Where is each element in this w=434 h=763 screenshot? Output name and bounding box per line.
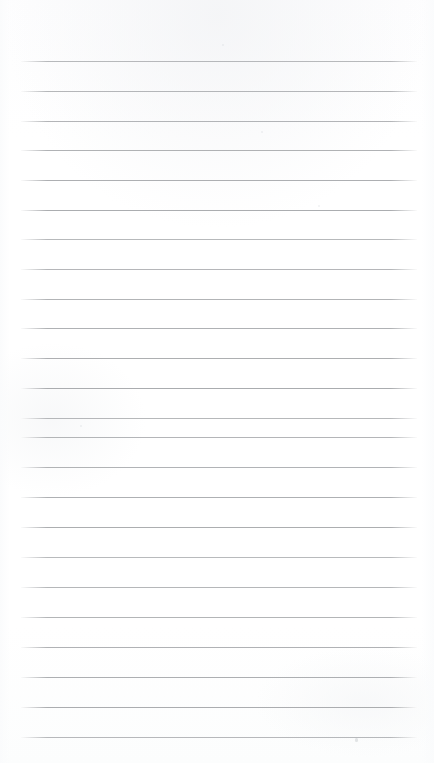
ruled-line [21, 150, 417, 151]
scan-speck [222, 44, 224, 46]
ruled-line [21, 707, 417, 708]
ruled-lines-group [0, 0, 434, 763]
ruled-line [21, 210, 417, 211]
ruled-line [21, 418, 417, 419]
ruled-line [21, 677, 417, 678]
ruled-line [21, 121, 417, 122]
scan-speck [318, 205, 320, 207]
ruled-line [21, 358, 417, 359]
ruled-line [21, 269, 417, 270]
ruled-line [21, 647, 417, 648]
ruled-line [21, 497, 417, 498]
ruled-line [21, 467, 417, 468]
ruled-line [21, 617, 417, 618]
scan-speck [80, 425, 82, 427]
scan-speck [261, 131, 263, 133]
ruled-line [21, 557, 417, 558]
ruled-line [21, 587, 417, 588]
ruled-line [21, 239, 417, 240]
ruled-line [21, 299, 417, 300]
scan-speck [355, 738, 358, 742]
ruled-line [21, 437, 417, 438]
ruled-line [21, 180, 417, 181]
scanned-page [0, 0, 434, 763]
ruled-line [21, 61, 417, 62]
ruled-line [21, 328, 417, 329]
ruled-line [21, 91, 417, 92]
ruled-line [21, 388, 417, 389]
ruled-line [21, 527, 417, 528]
